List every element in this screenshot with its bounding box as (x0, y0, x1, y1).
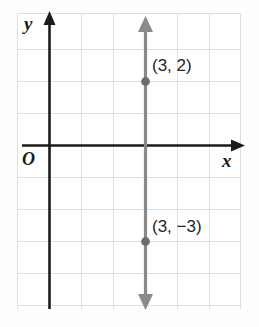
point-label-3-2: (3, 2) (152, 57, 192, 74)
graph-figure: y x O (3, 2) (3, −3) (0, 0, 259, 327)
y-axis-label: y (24, 14, 32, 33)
x-axis-label: x (222, 151, 232, 170)
plotted-point-3-2 (141, 77, 150, 86)
point-label-3-neg3: (3, −3) (152, 218, 202, 235)
plotted-point-3-neg3 (141, 237, 150, 246)
coordinate-plane (0, 0, 259, 327)
origin-label: O (22, 150, 35, 168)
